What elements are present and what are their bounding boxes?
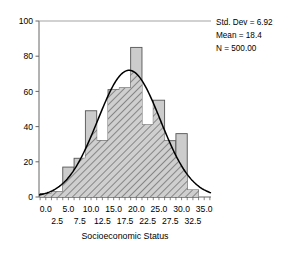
y-tick-label: 60	[23, 87, 33, 97]
x-tick-label-minor: 7.5	[74, 216, 86, 226]
chart-canvas: 020406080100 0.05.010.015.020.025.030.03…	[0, 0, 303, 257]
x-axis-title: Socioeconomic Status	[81, 231, 169, 241]
x-tick-label-minor: 22.5	[139, 216, 156, 226]
x-tick-label-minor: 32.5	[185, 216, 202, 226]
std-dev-label: Std. Dev = 6.92	[216, 18, 273, 27]
y-tick-label: 40	[23, 122, 33, 132]
x-axis-ticks: 0.05.010.015.020.025.030.035.02.57.512.5…	[40, 197, 213, 226]
histogram-chart: 020406080100 0.05.010.015.020.025.030.03…	[0, 0, 303, 257]
x-tick-label-minor: 17.5	[117, 216, 134, 226]
x-tick-label-major: 15.0	[105, 204, 122, 214]
x-tick-label-major: 0.0	[40, 204, 52, 214]
x-tick-label-major: 20.0	[128, 204, 145, 214]
n-label: N = 500.00	[216, 44, 257, 53]
stats-annotation: Std. Dev = 6.92 Mean = 18.4 N = 500.00	[216, 18, 273, 53]
x-tick-label-major: 25.0	[151, 204, 168, 214]
x-tick-label-major: 5.0	[62, 204, 74, 214]
y-tick-label: 80	[23, 51, 33, 61]
x-tick-label-major: 30.0	[173, 204, 190, 214]
x-tick-label-minor: 2.5	[51, 216, 63, 226]
y-tick-label: 0	[28, 192, 33, 202]
x-tick-label-major: 10.0	[83, 204, 100, 214]
y-tick-label: 100	[19, 16, 34, 26]
y-axis-ticks: 020406080100	[19, 16, 39, 202]
x-tick-label-major: 35.0	[196, 204, 213, 214]
x-tick-label-minor: 27.5	[162, 216, 179, 226]
mean-label: Mean = 18.4	[216, 31, 262, 40]
y-tick-label: 20	[23, 157, 33, 167]
x-tick-label-minor: 12.5	[94, 216, 111, 226]
